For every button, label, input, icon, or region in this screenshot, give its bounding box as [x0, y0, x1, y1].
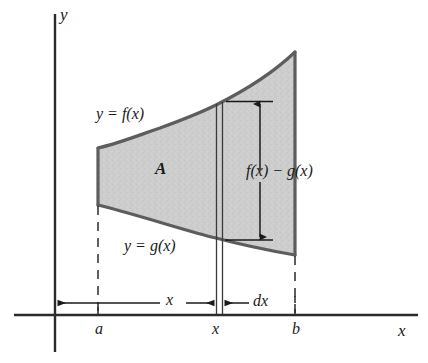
- axis-tick-label-x: x: [212, 321, 219, 337]
- strip-width-label: dx: [253, 293, 268, 309]
- lower-curve-label: y = g(x): [124, 238, 176, 254]
- x-axis-label: x: [398, 322, 406, 339]
- axis-tick-label-b: b: [292, 321, 300, 337]
- height-measure-label: f(x) − g(x): [246, 163, 313, 179]
- figure-canvas: [0, 0, 428, 363]
- area-between-curves-figure: y x y = f(x) y = g(x) A f(x) − g(x) dx x…: [0, 0, 428, 363]
- shaded-region-A: [98, 52, 295, 255]
- axis-tick-label-a: a: [95, 321, 103, 337]
- distance-measure-label: x: [166, 292, 173, 308]
- region-area-label: A: [155, 160, 166, 177]
- upper-curve-label: y = f(x): [96, 106, 144, 122]
- y-axis-label: y: [60, 6, 68, 23]
